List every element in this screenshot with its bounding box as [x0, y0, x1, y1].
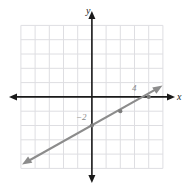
graph-figure: y x −2 4 [0, 0, 189, 187]
y-axis-label: y [85, 5, 91, 16]
x-intercept-label: 4 [132, 83, 137, 93]
x-axis-left-arrowhead [9, 93, 17, 100]
line-upper-right-arrowhead [152, 86, 162, 94]
point-y-intercept [90, 123, 94, 127]
x-axis-label: x [176, 91, 182, 102]
line-lower-left-arrowhead [22, 156, 32, 164]
point-2-neg1 [118, 109, 122, 113]
point-x-intercept [147, 95, 151, 99]
x-axis-right-arrowhead [167, 93, 175, 100]
y-axis-bottom-arrowhead [88, 175, 95, 183]
y-intercept-label: −2 [76, 112, 87, 122]
coordinate-plane: y x −2 4 [0, 0, 189, 187]
